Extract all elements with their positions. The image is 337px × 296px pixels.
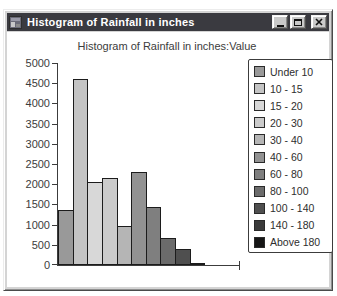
legend-item: 20 - 30 bbox=[254, 114, 332, 131]
legend-label: 100 - 140 bbox=[270, 202, 314, 214]
legend-item: 60 - 80 bbox=[254, 166, 332, 183]
x-axis-end-tick bbox=[239, 261, 240, 270]
legend-swatch-icon bbox=[254, 83, 265, 94]
legend-item: 15 - 20 bbox=[254, 97, 332, 114]
bar-30-40 bbox=[117, 226, 133, 265]
bar-100-140 bbox=[175, 249, 191, 265]
legend-item: 100 - 140 bbox=[254, 200, 332, 217]
y-tick-label: 2500 bbox=[8, 158, 50, 170]
legend-swatch-icon bbox=[254, 117, 265, 128]
legend-label: 10 - 15 bbox=[270, 83, 303, 95]
legend-swatch-icon bbox=[254, 220, 265, 231]
legend-label: 40 - 60 bbox=[270, 151, 303, 163]
y-tick-label: 1500 bbox=[8, 198, 50, 210]
y-axis-tick bbox=[52, 103, 58, 104]
minimize-button[interactable] bbox=[272, 15, 288, 29]
legend-label: 140 - 180 bbox=[270, 219, 314, 231]
y-axis-tick bbox=[52, 144, 58, 145]
close-icon bbox=[315, 18, 323, 26]
legend-label: 80 - 100 bbox=[270, 185, 309, 197]
legend-swatch-icon bbox=[254, 152, 265, 163]
plot-area: 5000450040003500300025002000150010005000 bbox=[57, 63, 240, 266]
bar-under-10 bbox=[58, 210, 74, 265]
legend-item: Under 10 bbox=[254, 63, 332, 80]
bar-80-100 bbox=[160, 238, 176, 265]
legend-swatch-icon bbox=[254, 186, 265, 197]
y-tick-label: 4500 bbox=[8, 77, 50, 89]
app-window: Histogram of Rainfall in inches Histogra… bbox=[3, 9, 333, 291]
bar-60-80 bbox=[146, 207, 162, 265]
application-icon[interactable] bbox=[9, 16, 22, 29]
legend-label: Above 180 bbox=[270, 236, 320, 248]
y-tick-label: 4000 bbox=[8, 97, 50, 109]
legend-item: 80 - 100 bbox=[254, 183, 332, 200]
y-tick-label: 1000 bbox=[8, 219, 50, 231]
bar-20-30 bbox=[102, 178, 118, 265]
y-axis-tick bbox=[52, 204, 58, 205]
legend-item: Above 180 bbox=[254, 234, 332, 251]
y-tick-label: 500 bbox=[8, 239, 50, 251]
legend-item: 140 - 180 bbox=[254, 217, 332, 234]
legend-label: 60 - 80 bbox=[270, 168, 303, 180]
title-bar[interactable]: Histogram of Rainfall in inches bbox=[7, 13, 329, 31]
legend-item: 30 - 40 bbox=[254, 131, 332, 148]
y-axis-tick bbox=[52, 63, 58, 64]
bar-140-180 bbox=[190, 263, 206, 265]
y-axis-tick bbox=[52, 83, 58, 84]
y-axis-tick bbox=[52, 124, 58, 125]
maximize-icon bbox=[294, 19, 302, 26]
y-tick-label: 5000 bbox=[8, 57, 50, 69]
legend-label: 30 - 40 bbox=[270, 134, 303, 146]
chart-client-area: Histogram of Rainfall in inches:Value 50… bbox=[7, 32, 329, 287]
chart-legend: Under 1010 - 1515 - 2020 - 3030 - 4040 -… bbox=[248, 59, 333, 253]
legend-item: 40 - 60 bbox=[254, 148, 332, 165]
legend-swatch-icon bbox=[254, 134, 265, 145]
y-tick-label: 3500 bbox=[8, 118, 50, 130]
legend-label: 15 - 20 bbox=[270, 100, 303, 112]
close-button[interactable] bbox=[311, 15, 327, 29]
bar-40-60 bbox=[131, 172, 147, 265]
y-axis-tick bbox=[52, 184, 58, 185]
legend-swatch-icon bbox=[254, 66, 265, 77]
legend-swatch-icon bbox=[254, 169, 265, 180]
legend-swatch-icon bbox=[254, 237, 265, 248]
y-tick-label: 0 bbox=[8, 259, 50, 271]
bar-10-15 bbox=[73, 79, 89, 265]
window-title: Histogram of Rainfall in inches bbox=[24, 16, 270, 28]
legend-label: Under 10 bbox=[270, 66, 313, 78]
maximize-button[interactable] bbox=[290, 15, 306, 29]
minimize-icon bbox=[277, 25, 284, 27]
y-tick-label: 3000 bbox=[8, 138, 50, 150]
y-tick-label: 2000 bbox=[8, 178, 50, 190]
y-axis-tick bbox=[52, 164, 58, 165]
legend-label: 20 - 30 bbox=[270, 117, 303, 129]
legend-swatch-icon bbox=[254, 100, 265, 111]
legend-item: 10 - 15 bbox=[254, 80, 332, 97]
legend-swatch-icon bbox=[254, 203, 265, 214]
bar-15-20 bbox=[87, 182, 103, 265]
chart-title: Histogram of Rainfall in inches:Value bbox=[37, 40, 297, 52]
